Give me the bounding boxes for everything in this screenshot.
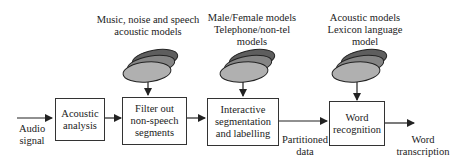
model-2-line1: Male/Female models xyxy=(196,12,308,24)
block-2-line3: segments xyxy=(131,127,179,139)
model-3-line2: Lexicon language xyxy=(315,24,415,36)
block-1-line2: analysis xyxy=(61,120,98,132)
partitioned-line2: data xyxy=(279,146,331,158)
model-3-line3: model xyxy=(315,36,415,48)
block-filter-non-speech: Filter out non-speech segments xyxy=(122,97,187,145)
model-label-3: Acoustic models Lexicon language model xyxy=(315,12,415,48)
block-1-line1: Acoustic xyxy=(61,108,98,120)
block-word-recognition: Word recognition xyxy=(329,101,385,146)
model-stack-2-icon xyxy=(219,46,276,96)
block-2-line2: non-speech xyxy=(131,115,179,127)
model-stack-1-icon xyxy=(122,46,179,95)
word-transcription-label: Word transcription xyxy=(391,134,455,158)
model-label-1: Music, noise and speech acoustic models xyxy=(86,14,210,38)
model-stack-3-icon xyxy=(331,46,388,100)
block-4-line1: Word xyxy=(333,112,381,124)
model-1-line2: acoustic models xyxy=(86,26,210,38)
block-3-line2: segmentation xyxy=(215,116,271,128)
model-2-line3: models xyxy=(196,36,308,48)
audio-signal-label: Audio signal xyxy=(14,123,50,147)
model-label-2: Male/Female models Telephone/non-tel mod… xyxy=(196,12,308,48)
partitioned-data-label: Partitioned data xyxy=(279,134,331,158)
audio-line2: signal xyxy=(14,135,50,147)
output-line1: Word xyxy=(391,134,455,146)
model-2-line2: Telephone/non-tel xyxy=(196,24,308,36)
block-4-line2: recognition xyxy=(333,124,381,136)
partitioned-line1: Partitioned xyxy=(279,134,331,146)
output-line2: transcription xyxy=(391,146,455,158)
audio-line1: Audio xyxy=(14,123,50,135)
block-3-line3: and labelling xyxy=(215,128,271,140)
block-interactive-segmentation: Interactive segmentation and labelling xyxy=(207,98,279,146)
model-3-line1: Acoustic models xyxy=(315,12,415,24)
block-3-line1: Interactive xyxy=(215,104,271,116)
model-1-line1: Music, noise and speech xyxy=(86,14,210,26)
block-acoustic-analysis: Acoustic analysis xyxy=(55,98,105,141)
block-2-line1: Filter out xyxy=(131,103,179,115)
